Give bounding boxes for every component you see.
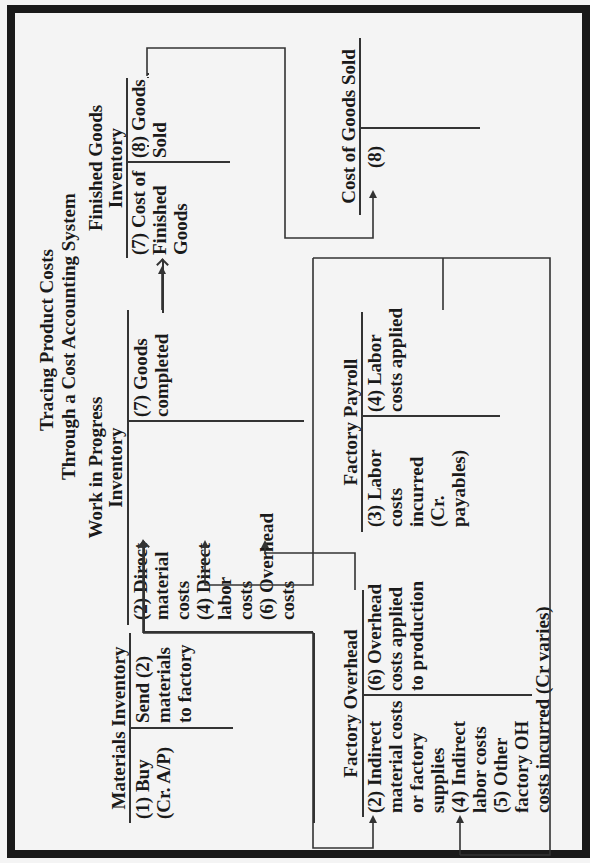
overhead-debit-5: (4) Indirect bbox=[448, 721, 469, 813]
payroll-debit-1: (3) Labor bbox=[364, 449, 385, 527]
materials-credit-1: Send (2) bbox=[132, 656, 153, 723]
wip-debit-2: material bbox=[151, 551, 172, 620]
cogs-debit-1: (8) bbox=[364, 146, 385, 168]
t-account-divider bbox=[359, 127, 480, 129]
payroll-credit-2: costs applied bbox=[385, 308, 406, 412]
fg-credit-2: Sold bbox=[149, 122, 170, 158]
materials-title: Materials Inventory bbox=[108, 633, 129, 823]
fg-credit-1: (8) Goods bbox=[128, 79, 149, 158]
overhead-debit-2: material costs bbox=[385, 701, 406, 813]
t-account-divider bbox=[361, 415, 500, 417]
materials-debit-2: (Cr. A/P) bbox=[153, 747, 174, 819]
overhead-credit-2: costs applied bbox=[385, 587, 406, 691]
connector-materials-to-wip bbox=[143, 543, 145, 633]
finished-goods-title-1: Finished Goods bbox=[85, 78, 106, 258]
t-account-divider bbox=[126, 161, 230, 163]
unused-tick bbox=[147, 145, 149, 147]
materials-credit-3: to factory bbox=[174, 644, 195, 723]
wip-debit-3: costs bbox=[172, 581, 193, 620]
overhead-debit-7: (5) Other bbox=[490, 738, 511, 813]
wip-debit-5: labor bbox=[214, 577, 235, 620]
fg-debit-2: Finished bbox=[149, 185, 170, 255]
t-account-top-line bbox=[361, 312, 363, 532]
overhead-credit-3: to production bbox=[406, 581, 427, 691]
wip-debit-4: (4) Direct bbox=[193, 543, 214, 620]
fg-sold-corner-2 bbox=[147, 74, 149, 75]
overhead-debit-8: factory OH bbox=[511, 721, 532, 813]
materials-debit-1: (1) Buy bbox=[132, 759, 153, 819]
title-line-2: Through a Cost Accounting System bbox=[58, 200, 79, 480]
overhead-debit-6: labor costs bbox=[469, 726, 490, 813]
fg-debit-1: (7) Cost of bbox=[128, 171, 149, 255]
wip-debit-7: (6) Overhead bbox=[256, 513, 277, 620]
wip-debit-8: costs bbox=[277, 581, 298, 620]
t-account-divider bbox=[129, 727, 233, 729]
wip-credit-1: (7) Goods bbox=[130, 338, 151, 417]
fg-debit-3: Goods bbox=[170, 203, 191, 255]
wip-debit-6: costs bbox=[235, 581, 256, 620]
payroll-debit-2: costs bbox=[385, 488, 406, 527]
t-account-divider bbox=[127, 420, 304, 422]
overhead-debit-3: or factory bbox=[406, 733, 427, 813]
t-account-top-line bbox=[127, 310, 129, 625]
payroll-debit-5: payables) bbox=[448, 450, 469, 527]
payroll-title: Factory Payroll bbox=[340, 312, 361, 532]
payroll-debit-4: (Cr. bbox=[427, 496, 448, 528]
connector-materials-to-overhead bbox=[313, 633, 315, 823]
wip-debit-1: (2) Direct bbox=[130, 543, 151, 620]
finished-goods-title-2: Inventory bbox=[105, 78, 126, 258]
payroll-debit-3: incurred bbox=[406, 457, 427, 527]
title-line-1: Tracing Product Costs bbox=[36, 200, 57, 480]
overhead-debit-1: (2) Indirect bbox=[364, 721, 385, 813]
wip-title-2: Inventory bbox=[105, 310, 126, 625]
cogs-title: Cost of Goods Sold bbox=[338, 38, 359, 215]
payroll-credit-1: (4) Labor bbox=[364, 334, 385, 412]
t-account-divider bbox=[362, 694, 532, 696]
connector-materials-down bbox=[143, 631, 313, 633]
overhead-debit-9: costs incurred (Cr varies) bbox=[532, 606, 553, 813]
overhead-title: Factory Overhead bbox=[340, 590, 361, 817]
overhead-credit-1: (6) Overhead bbox=[364, 584, 385, 691]
wip-title-1: Work in Progress bbox=[85, 310, 106, 625]
overhead-debit-4: supplies bbox=[427, 748, 448, 813]
wip-credit-2: completed bbox=[151, 334, 172, 417]
materials-credit-2: materials bbox=[153, 647, 174, 723]
path-start bbox=[147, 77, 149, 78]
